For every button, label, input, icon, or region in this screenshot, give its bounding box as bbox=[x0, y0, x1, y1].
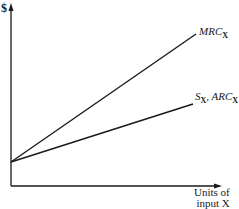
mrc-line bbox=[11, 34, 196, 162]
mrc-label: MRCX bbox=[199, 26, 228, 40]
supply-arc-label: SX, ARCX bbox=[195, 91, 238, 105]
supply-arc-line bbox=[11, 104, 193, 162]
x-axis-label: Units of input X bbox=[194, 187, 230, 209]
y-axis-label: $ bbox=[1, 2, 7, 14]
y-axis-arrow-icon bbox=[9, 3, 14, 11]
x-axis-label-line2: input X bbox=[194, 198, 230, 209]
